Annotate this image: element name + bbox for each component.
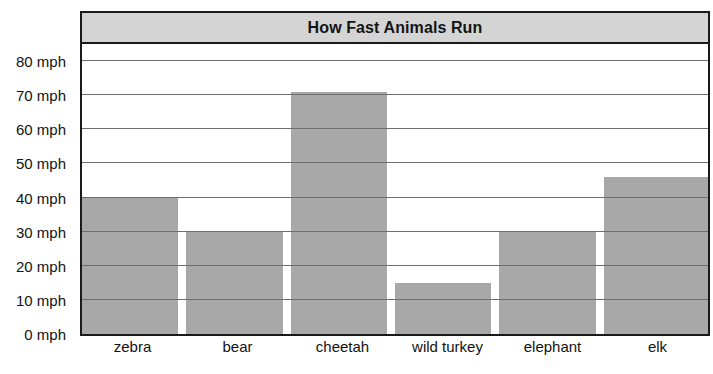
y-tick-label: 0 mph (24, 326, 74, 343)
y-tick-label: 20 mph (16, 257, 74, 274)
bar-chart-figure: How Fast Animals Run 0 mph10 mph20 mph30… (0, 0, 713, 374)
x-tick-label: bear (185, 338, 290, 366)
gridline (82, 265, 708, 266)
plot-area (80, 44, 710, 336)
x-axis: zebrabearcheetahwild turkeyelephantelk (80, 338, 710, 366)
y-tick-label: 40 mph (16, 189, 74, 206)
bar (82, 198, 178, 334)
bar-slot (291, 44, 395, 334)
x-tick-label: elk (605, 338, 710, 366)
gridline (82, 60, 708, 61)
chart-title: How Fast Animals Run (308, 19, 483, 37)
bars-group (82, 44, 708, 334)
y-tick-label: 30 mph (16, 223, 74, 240)
y-tick-label: 50 mph (16, 155, 74, 172)
bar (499, 232, 595, 334)
y-tick-label: 70 mph (16, 87, 74, 104)
x-tick-label: elephant (500, 338, 605, 366)
bar-slot (186, 44, 290, 334)
plot-inner (82, 44, 708, 334)
y-tick-label: 60 mph (16, 121, 74, 138)
y-tick-label: 80 mph (16, 53, 74, 70)
y-tick-label: 10 mph (16, 291, 74, 308)
gridline (82, 94, 708, 95)
bar (604, 177, 708, 334)
bar (186, 232, 282, 334)
gridline (82, 299, 708, 300)
bar-slot (604, 44, 708, 334)
gridline (82, 231, 708, 232)
chart-title-bar: How Fast Animals Run (80, 11, 710, 44)
gridline (82, 128, 708, 129)
x-tick-label: wild turkey (395, 338, 500, 366)
bar-slot (395, 44, 499, 334)
bar-slot (82, 44, 186, 334)
gridline (82, 197, 708, 198)
x-tick-label: cheetah (290, 338, 395, 366)
gridline (82, 162, 708, 163)
y-axis: 0 mph10 mph20 mph30 mph40 mph50 mph60 mp… (0, 44, 74, 336)
x-tick-label: zebra (80, 338, 185, 366)
bar-slot (499, 44, 603, 334)
bar (395, 283, 491, 334)
